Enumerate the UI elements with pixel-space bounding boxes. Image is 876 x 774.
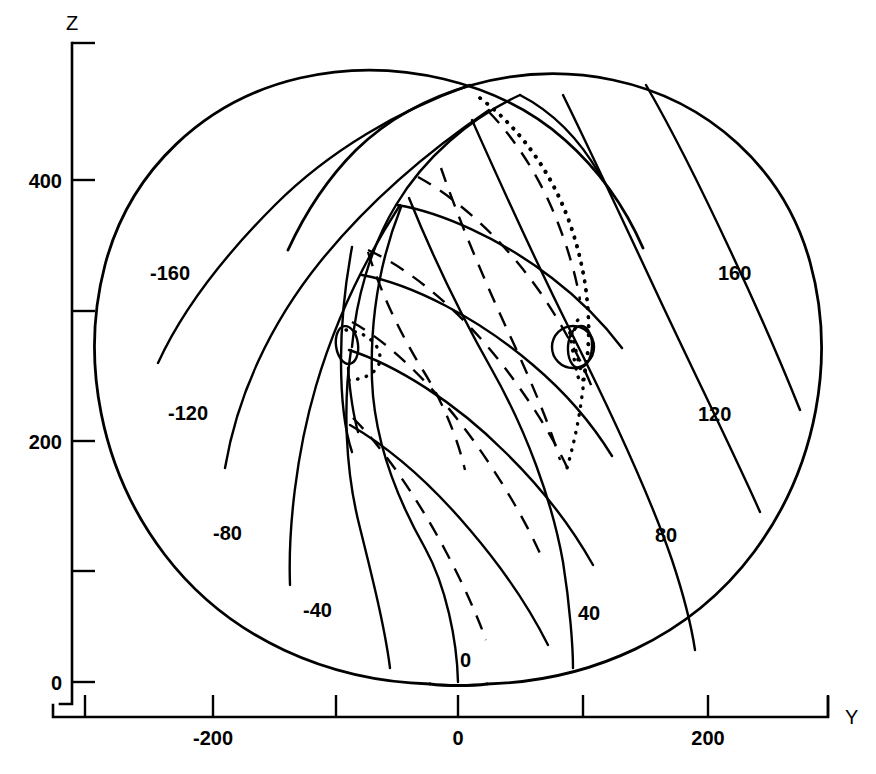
y-axis-line xyxy=(53,697,828,717)
dashed-grid-group xyxy=(352,112,595,640)
contour-label-0: 0 xyxy=(460,649,471,671)
dashed-arc-5 xyxy=(353,418,486,640)
dotted-terminator-lower xyxy=(565,370,585,475)
contour-label-160: 160 xyxy=(718,262,751,284)
z-tick-label-400: 400 xyxy=(29,170,62,192)
contour-label-40: 40 xyxy=(578,602,600,624)
contour-80 xyxy=(472,120,695,650)
projection-plot: 400 200 0 Z -200 0 200 Y xyxy=(0,0,876,774)
outer-circle-left xyxy=(95,70,643,684)
z-tick-label-200: 200 xyxy=(29,431,62,453)
outer-bottom-arc xyxy=(430,684,487,686)
contour-label-neg40: -40 xyxy=(303,599,332,621)
contour-160 xyxy=(646,85,800,410)
dotted-boundary-group xyxy=(480,98,589,475)
figure-root: 400 200 0 Z -200 0 200 Y xyxy=(0,0,876,774)
contour-label-120: 120 xyxy=(698,403,731,425)
y-tick-label-200: 200 xyxy=(691,727,724,749)
dotted-terminator-main xyxy=(480,98,589,382)
contour-label-80: 80 xyxy=(655,524,677,546)
contour-labels-group: -160 -120 -80 -40 0 40 80 120 160 xyxy=(150,262,751,671)
y-tick-label-0: 0 xyxy=(452,727,463,749)
y-axis-group: -200 0 200 Y xyxy=(53,695,858,749)
contour-label-neg120: -120 xyxy=(168,402,208,424)
contour-neg40 xyxy=(346,350,390,668)
contour-label-neg80: -80 xyxy=(213,522,242,544)
dashed-meridian-left xyxy=(368,252,465,470)
contour-120 xyxy=(563,95,760,512)
y-axis-title: Y xyxy=(845,706,858,728)
right-feature-group xyxy=(552,325,594,369)
outer-boundary-group xyxy=(95,70,822,685)
z-axis-title: Z xyxy=(66,12,78,34)
z-axis-group: 400 200 0 Z xyxy=(29,12,95,704)
z-tick-label-0: 0 xyxy=(51,672,62,694)
meridian-contours-group xyxy=(158,85,800,682)
dashed-arc-2 xyxy=(418,177,595,395)
z-axis-line xyxy=(60,43,72,704)
contour-label-neg160: -160 xyxy=(150,262,190,284)
y-tick-label-neg200: -200 xyxy=(193,727,233,749)
outer-circle-right xyxy=(288,74,821,684)
contour-neg160 xyxy=(158,85,470,363)
